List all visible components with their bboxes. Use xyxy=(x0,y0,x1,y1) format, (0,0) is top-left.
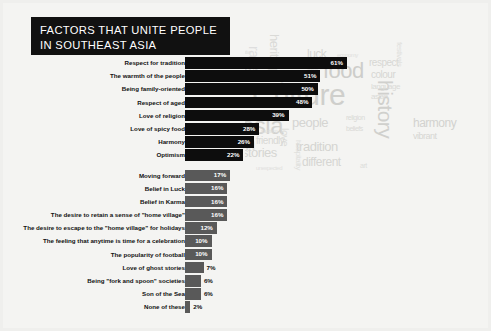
bar: 12% xyxy=(185,222,217,234)
infographic-page: Cultureasiafoodhistoryanunpeopletraditio… xyxy=(0,0,491,331)
bar-label: Belief in Karma xyxy=(0,196,185,208)
chart-row: Love of ghost stories7% xyxy=(0,262,491,274)
bar-value: 48% xyxy=(296,99,308,105)
bar-value: 26% xyxy=(238,139,250,145)
bar-value: 61% xyxy=(331,60,343,66)
chart-row: Belief in Luck16% xyxy=(0,183,491,195)
chart-row: Being "fork and spoon" societies6% xyxy=(0,275,491,287)
bar-value: 10% xyxy=(195,238,207,244)
bar-label: Being "fork and spoon" societies xyxy=(0,275,185,287)
bar: 22% xyxy=(185,149,243,161)
bar-value: 12% xyxy=(200,225,212,231)
page-title-line-2: IN SOUTHEAST ASIA xyxy=(40,38,230,53)
bar-value: 7% xyxy=(207,265,216,271)
chart-row: Moving forward17% xyxy=(0,170,491,182)
bar: 16% xyxy=(185,196,227,208)
bar: 28% xyxy=(185,123,259,135)
bar-label: Respect of aged xyxy=(0,97,185,109)
bar-value: 39% xyxy=(272,112,284,118)
bar-value: 16% xyxy=(211,185,223,191)
bar: 10% xyxy=(185,249,212,261)
bar-label: Being family-oriented xyxy=(0,83,185,95)
bar-value: 6% xyxy=(204,278,213,284)
chart-row: Belief in Karma16% xyxy=(0,196,491,208)
bar: 26% xyxy=(185,136,254,148)
chart-row: The desire to escape to the "home villag… xyxy=(0,222,491,234)
bar: 16% xyxy=(185,209,227,221)
bar-label: Belief in Luck xyxy=(0,183,185,195)
chart-row: Respect for tradition61% xyxy=(0,57,491,69)
bar: 50% xyxy=(185,83,318,95)
bar-value: 2% xyxy=(193,304,202,310)
chart-row: Harmony26% xyxy=(0,136,491,148)
bar-value: 51% xyxy=(304,73,316,79)
chart-row: The feeling that anytime is time for a c… xyxy=(0,235,491,247)
bar-value: 10% xyxy=(195,251,207,257)
bar: 51% xyxy=(185,70,320,82)
bar-value: 6% xyxy=(204,291,213,297)
bar: 6% xyxy=(185,288,201,300)
bar: 7% xyxy=(185,262,204,274)
group-separator xyxy=(0,163,491,170)
bar-label: Respect for tradition xyxy=(0,57,185,69)
bar-label: Love of ghost stories xyxy=(0,262,185,274)
bar-label: Love of religion xyxy=(0,110,185,122)
bar-chart: Respect for tradition61%The warmth of th… xyxy=(0,57,491,315)
bar-label: None of these xyxy=(0,301,185,313)
bar-label: Love of spicy food xyxy=(0,123,185,135)
bar-label: The desire to escape to the "home villag… xyxy=(0,222,185,234)
chart-row: The warmth of the people51% xyxy=(0,70,491,82)
bar: 16% xyxy=(185,183,227,195)
bar-value: 22% xyxy=(227,152,239,158)
chart-row: The popularity of football10% xyxy=(0,249,491,261)
bar: 2% xyxy=(185,301,190,313)
cloud-word: relative xyxy=(245,50,251,55)
chart-row: Optimism22% xyxy=(0,149,491,161)
chart-row: Son of the Sea6% xyxy=(0,288,491,300)
bar-value: 28% xyxy=(243,126,255,132)
bar: 10% xyxy=(185,235,212,247)
chart-row: The desire to retain a sense of "home vi… xyxy=(0,209,491,221)
bar-label: Son of the Sea xyxy=(0,288,185,300)
bar-label: The desire to retain a sense of "home vi… xyxy=(0,209,185,221)
bar-label: The feeling that anytime is time for a c… xyxy=(0,235,185,247)
page-title-line-1: FACTORS THAT UNITE PEOPLE xyxy=(40,23,230,38)
chart-row: None of these2% xyxy=(0,301,491,313)
bar: 6% xyxy=(185,275,201,287)
bar-label: Harmony xyxy=(0,136,185,148)
bar-label: Moving forward xyxy=(0,170,185,182)
bar-label: Optimism xyxy=(0,149,185,161)
bar-value: 16% xyxy=(211,199,223,205)
chart-row: Love of religion39% xyxy=(0,110,491,122)
bar-value: 50% xyxy=(301,86,313,92)
bar: 61% xyxy=(185,57,347,69)
bar: 39% xyxy=(185,110,289,122)
chart-row: Being family-oriented50% xyxy=(0,83,491,95)
bar-label: The popularity of football xyxy=(0,249,185,261)
bar: 17% xyxy=(185,170,230,182)
bar-value: 16% xyxy=(211,212,223,218)
page-title: FACTORS THAT UNITE PEOPLE IN SOUTHEAST A… xyxy=(31,17,230,55)
chart-row: Respect of aged48% xyxy=(0,97,491,109)
chart-row: Love of spicy food28% xyxy=(0,123,491,135)
bar-label: The warmth of the people xyxy=(0,70,185,82)
bar-value: 17% xyxy=(214,172,226,178)
bar: 48% xyxy=(185,97,312,109)
